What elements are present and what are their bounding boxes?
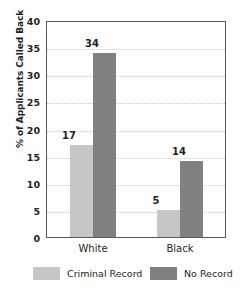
bar-black-criminal-record[interactable]	[157, 210, 180, 237]
chart-legend: Criminal Record No Record	[0, 265, 244, 285]
legend-item-criminal-record[interactable]: Criminal Record	[33, 265, 142, 281]
y-tick-label: 40	[14, 16, 40, 27]
y-tick-label: 15	[14, 151, 40, 162]
category-label-white: White	[58, 243, 128, 254]
y-tick-label: 20	[14, 124, 40, 135]
y-tick-label: 5	[14, 205, 40, 216]
bar-white-criminal-record[interactable]	[70, 145, 93, 237]
bar-white-no-record[interactable]	[93, 53, 116, 238]
legend-swatch-criminal-record	[33, 267, 60, 280]
bar-black-no-record[interactable]	[180, 161, 203, 237]
legend-item-no-record[interactable]: No Record	[150, 265, 233, 281]
category-label-black: Black	[145, 243, 215, 254]
value-label-white-no-record: 34	[77, 38, 107, 49]
value-label-black-criminal-record: 5	[141, 195, 171, 206]
bar-chart: % of Applicants Called Back 40 35 30 25 …	[0, 0, 244, 288]
y-tick-label: 0	[14, 233, 40, 244]
value-label-black-no-record: 14	[164, 146, 194, 157]
legend-label-no-record: No Record	[184, 268, 233, 279]
legend-swatch-no-record	[150, 267, 177, 280]
legend-label-criminal-record: Criminal Record	[67, 268, 142, 279]
value-label-white-criminal-record: 17	[54, 130, 84, 141]
y-tick-label: 25	[14, 97, 40, 108]
y-tick-label: 35	[14, 43, 40, 54]
y-tick-label: 30	[14, 70, 40, 81]
y-tick-label: 10	[14, 178, 40, 189]
